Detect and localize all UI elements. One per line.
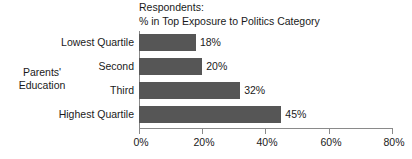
plot-area: 18% 20% 32% 45% xyxy=(139,31,392,128)
bar-value-label: 45% xyxy=(285,107,306,122)
bar[interactable] xyxy=(139,34,196,51)
x-axis-tick xyxy=(265,129,266,134)
category-label: Lowest Quartile xyxy=(40,36,134,49)
bar-chart: Respondents: % in Top Exposure to Politi… xyxy=(0,0,412,159)
category-label: Second xyxy=(40,60,134,73)
bar-value-label: 18% xyxy=(200,35,221,50)
chart-title-line-2: % in Top Exposure to Politics Category xyxy=(139,15,320,29)
chart-title-line-1: Respondents: xyxy=(139,1,320,15)
x-axis-line xyxy=(139,128,393,129)
bar[interactable] xyxy=(139,106,281,123)
x-axis-tick xyxy=(202,129,203,134)
bar-value-label: 20% xyxy=(206,59,227,74)
bar[interactable] xyxy=(139,58,202,75)
chart-title: Respondents: % in Top Exposure to Politi… xyxy=(139,1,320,28)
x-axis-tick xyxy=(392,129,393,134)
x-axis-tick-label: 60% xyxy=(320,136,341,149)
bar[interactable] xyxy=(139,82,240,99)
x-axis-tick xyxy=(139,129,140,134)
category-label: Highest Quartile xyxy=(40,108,134,121)
bar-value-label: 32% xyxy=(244,83,265,98)
x-axis-tick-label: 40% xyxy=(256,136,277,149)
category-label: Third xyxy=(40,84,134,97)
x-axis-tick-label: 20% xyxy=(193,136,214,149)
x-axis-tick-label: 80% xyxy=(383,136,404,149)
x-axis-tick xyxy=(329,129,330,134)
x-axis-tick-label: 0% xyxy=(133,136,148,149)
